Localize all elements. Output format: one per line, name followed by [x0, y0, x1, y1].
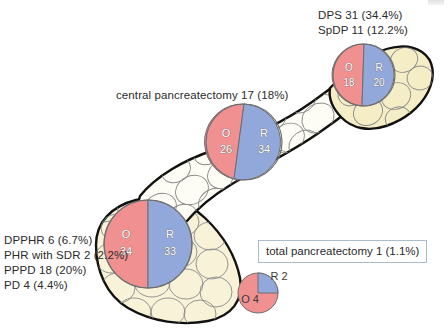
pie-central-robotic-key: R: [260, 127, 268, 139]
label-total-pancreatectomy-box: total pancreatectomy 1 (1.1%): [258, 240, 427, 263]
pie-chart-central[interactable]: O 26 R 34: [205, 104, 282, 180]
pie-total-open-label: O 4: [241, 293, 259, 305]
pie-head-robotic-value: 33: [164, 245, 176, 257]
pie-tail-open-key: O: [345, 62, 353, 73]
label-pppd: PPPD 18 (20%): [4, 263, 128, 278]
pie-tail-robotic-value: 20: [373, 77, 385, 88]
pie-central-open-value: 26: [220, 143, 232, 155]
label-dps: DPS 31 (34.4%): [318, 8, 403, 23]
pie-chart-total[interactable]: O 4 R 2: [238, 270, 288, 313]
pie-chart-tail[interactable]: O 18 R 20: [332, 44, 395, 106]
pie-head-robotic-key: R: [166, 228, 174, 240]
label-head-procedures: DPPHR 6 (6.7%) PHR with SDR 2 (2.2%) PPP…: [4, 233, 128, 293]
pie-central-open-key: O: [222, 127, 231, 139]
pie-total-robotic-label: R 2: [270, 270, 287, 282]
pie-tail-robotic-key: R: [375, 62, 382, 73]
label-central-pancreatectomy: central pancreatectomy 17 (18%): [116, 88, 289, 103]
label-spdp: SpDP 11 (12.2%): [318, 23, 408, 38]
label-dpphr: DPPHR 6 (6.7%): [4, 233, 128, 248]
label-phr-with-sdr: PHR with SDR 2 (2.2%): [4, 248, 128, 263]
pie-tail-open-value: 18: [343, 77, 355, 88]
pie-central-robotic-value: 34: [258, 143, 270, 155]
pancreas-resection-figure: O 34 R 33 O 26 R 34 O 18 R 20: [0, 0, 447, 329]
label-pd: PD 4 (4.4%): [4, 278, 128, 293]
